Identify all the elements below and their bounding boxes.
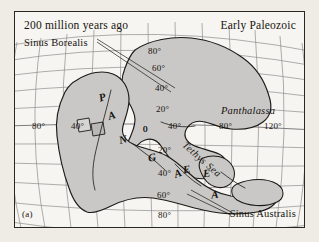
latitude-label-20n: 20° — [156, 105, 169, 114]
label-sinus-borealis: Sinus Borealis — [24, 38, 88, 49]
longitude-label-40w: 40° — [71, 122, 84, 131]
map-frame: 200 million years ago Early Paleozoic Si… — [14, 11, 305, 228]
microplate-block-east — [91, 122, 105, 136]
longitude-label-80w: 80° — [32, 122, 45, 131]
latitude-label-40n: 40° — [155, 84, 168, 93]
pangea-letter-e-alt: E — [182, 164, 191, 176]
longitude-label-120e: 120° — [264, 122, 282, 131]
latitude-label-20s: 20° — [158, 146, 171, 155]
latitude-label-40s: 40° — [158, 169, 171, 178]
paleogeographic-figure: 200 million years ago Early Paleozoic Si… — [0, 0, 319, 242]
figure-title-right: Early Paleozoic — [221, 20, 296, 32]
figure-tag: (a) — [22, 210, 33, 219]
longitude-label-40e: 40° — [168, 122, 181, 131]
longitude-label-80e: 80° — [219, 122, 232, 131]
latitude-label-60n: 60° — [152, 64, 165, 73]
label-sinus-australis: Sinus Australis — [230, 209, 296, 220]
pangea-letter-a-final: A — [210, 189, 219, 201]
label-panthalassa: Panthalassa — [221, 106, 275, 117]
latitude-label-80s: 80° — [158, 211, 171, 220]
longitude-label-0: 0 — [143, 125, 148, 134]
pangea-letter-e: E — [203, 168, 211, 179]
australia-fragment — [232, 180, 283, 206]
pangea-letter-g: G — [147, 151, 157, 163]
latitude-label-60s: 60° — [157, 191, 170, 200]
figure-title-left: 200 million years ago — [24, 20, 128, 32]
latitude-label-80n: 80° — [148, 47, 161, 56]
